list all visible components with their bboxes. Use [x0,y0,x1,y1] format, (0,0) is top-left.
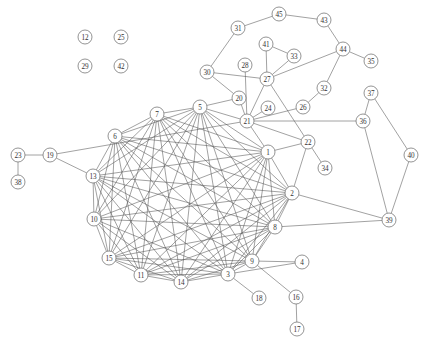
graph-node[interactable]: 41 [259,37,273,51]
node-circle[interactable] [134,268,148,282]
graph-node[interactable]: 28 [238,58,252,72]
graph-node[interactable]: 25 [114,30,128,44]
node-circle[interactable] [193,100,207,114]
graph-node[interactable]: 33 [287,49,301,63]
graph-edge [164,108,193,113]
graph-edge [259,261,295,262]
node-circle[interactable] [289,290,303,304]
graph-node[interactable]: 20 [232,91,246,105]
node-circle[interactable] [221,267,235,281]
graph-node[interactable]: 35 [364,54,378,68]
graph-node[interactable]: 15 [102,251,116,265]
graph-node[interactable]: 2 [285,186,299,200]
node-circle[interactable] [43,148,57,162]
node-circle[interactable] [317,13,331,27]
node-circle[interactable] [87,212,101,226]
node-circle[interactable] [86,169,100,183]
node-circle[interactable] [78,30,92,44]
graph-node[interactable]: 26 [296,100,310,114]
graph-node[interactable]: 40 [404,148,418,162]
graph-node[interactable]: 6 [108,129,122,143]
node-circle[interactable] [252,291,266,305]
node-circle[interactable] [268,220,282,234]
graph-node[interactable]: 16 [289,290,303,304]
node-circle[interactable] [260,72,274,86]
graph-node[interactable]: 27 [260,72,274,86]
graph-node[interactable]: 31 [231,21,245,35]
node-circle[interactable] [285,186,299,200]
graph-node[interactable]: 4 [295,255,309,269]
node-circle[interactable] [364,86,378,100]
graph-node[interactable]: 43 [317,13,331,27]
graph-node[interactable]: 36 [356,114,370,128]
graph-node[interactable]: 14 [174,275,188,289]
graph-node[interactable]: 17 [290,322,304,336]
graph-node[interactable]: 42 [114,59,128,73]
graph-node[interactable]: 10 [87,212,101,226]
graph-edge [308,93,319,103]
node-circle[interactable] [296,100,310,114]
graph-node[interactable]: 8 [268,220,282,234]
graph-edge [115,261,135,271]
node-circle[interactable] [290,322,304,336]
node-circle[interactable] [11,148,25,162]
graph-edge [251,127,264,146]
graph-canvas: 1234567891011121314151617181920212223242… [0,0,425,346]
graph-edge [234,264,246,270]
node-circle[interactable] [404,148,418,162]
graph-node[interactable]: 13 [86,169,100,183]
node-circle[interactable] [150,107,164,121]
node-circle[interactable] [114,30,128,44]
node-circle[interactable] [356,114,370,128]
graph-node[interactable]: 38 [11,175,25,189]
graph-node[interactable]: 11 [134,268,148,282]
graph-node[interactable]: 21 [240,114,254,128]
node-circle[interactable] [231,21,245,35]
node-circle[interactable] [382,213,396,227]
graph-node[interactable]: 9 [245,254,259,268]
node-circle[interactable] [108,129,122,143]
node-circle[interactable] [78,59,92,73]
graph-node[interactable]: 29 [78,59,92,73]
graph-node[interactable]: 18 [252,291,266,305]
graph-node[interactable]: 5 [193,100,207,114]
graph-edge [274,52,337,77]
node-circle[interactable] [238,58,252,72]
node-circle[interactable] [174,275,188,289]
graph-node[interactable]: 23 [11,148,25,162]
graph-edge [349,52,364,58]
graph-node[interactable]: 3 [221,267,235,281]
graph-node[interactable]: 45 [272,7,286,21]
node-circle[interactable] [261,101,275,115]
node-circle[interactable] [336,42,350,56]
graph-node[interactable]: 7 [150,107,164,121]
graph-node[interactable]: 30 [200,65,214,79]
node-circle[interactable] [200,65,214,79]
node-circle[interactable] [245,254,259,268]
node-circle[interactable] [240,114,254,128]
node-circle[interactable] [301,135,315,149]
graph-node[interactable]: 19 [43,148,57,162]
node-circle[interactable] [261,145,275,159]
node-circle[interactable] [11,175,25,189]
graph-node[interactable]: 1 [261,145,275,159]
node-circle[interactable] [232,91,246,105]
node-circle[interactable] [259,37,273,51]
node-circle[interactable] [317,81,331,95]
node-circle[interactable] [318,161,332,175]
node-circle[interactable] [114,59,128,73]
graph-node[interactable]: 34 [318,161,332,175]
graph-node[interactable]: 22 [301,135,315,149]
node-circle[interactable] [102,251,116,265]
graph-node[interactable]: 24 [261,101,275,115]
graph-node[interactable]: 32 [317,81,331,95]
graph-node[interactable]: 39 [382,213,396,227]
node-circle[interactable] [364,54,378,68]
graph-edge [188,275,221,281]
graph-node[interactable]: 12 [78,30,92,44]
graph-node[interactable]: 44 [336,42,350,56]
graph-node[interactable]: 37 [364,86,378,100]
node-circle[interactable] [272,7,286,21]
node-circle[interactable] [287,49,301,63]
node-circle[interactable] [295,255,309,269]
